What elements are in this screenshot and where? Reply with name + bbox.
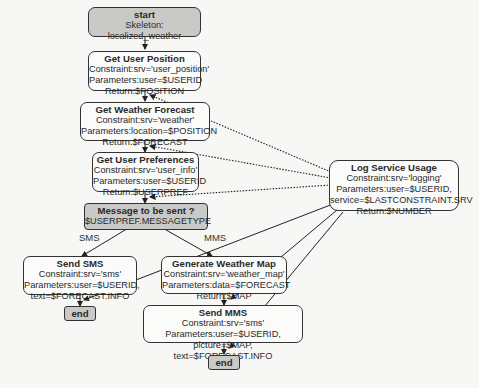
send-mms-node: Send MMS Constraint:srv='sms' Parameters… [143, 305, 303, 343]
branch-label-mms: MMS [204, 232, 226, 243]
end-sms-node: end [64, 306, 96, 321]
branch-label-sms: SMS [79, 232, 100, 243]
decision-node: Message to be sent ? $USERPREF.MESSAGETY… [84, 203, 208, 230]
get-user-preferences-node: Get User Preferences Constraint:srv='use… [92, 152, 199, 192]
end-mms-node: end [208, 355, 240, 370]
get-weather-forecast-node: Get Weather Forecast Constraint:srv='wea… [80, 102, 210, 141]
generate-weather-map-node: Generate Weather Map Constraint:srv='wea… [161, 256, 287, 294]
get-user-position-node: Get User Position Constraint:srv='user_p… [88, 51, 201, 91]
send-sms-node: Send SMS Constraint:srv='sms' Parameters… [23, 256, 137, 295]
log-service-usage-node: Log Service Usage Constraint:srv='loggin… [329, 160, 459, 211]
start-node: start Skeleton: localized_weather [88, 7, 201, 37]
